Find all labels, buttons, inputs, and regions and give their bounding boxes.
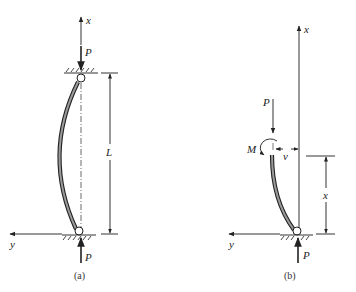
load-arrow-top-a: P: [81, 46, 92, 70]
moment-label-b: M: [246, 143, 257, 155]
position-label-b: x: [322, 189, 328, 201]
column-a: [59, 82, 78, 229]
y-axis-label-b: y: [228, 238, 234, 250]
y-axis-label-a: y: [9, 238, 15, 250]
x-axis-a: x: [81, 14, 91, 45]
moment-b: M: [246, 139, 277, 155]
y-axis-b: y: [228, 234, 280, 250]
load-label-top-b: P: [262, 96, 270, 108]
x-axis-b: x: [299, 23, 309, 234]
length-label-a: L: [105, 146, 112, 158]
x-axis-label-b: x: [303, 23, 309, 35]
load-arrow-bottom-a: P: [81, 238, 92, 263]
y-axis-a: y: [9, 234, 62, 250]
top-support-a: [64, 68, 98, 82]
load-label-bottom-b: P: [302, 249, 310, 261]
caption-a: (a): [74, 270, 85, 282]
position-dimension-b: x: [306, 156, 335, 234]
column-buckling-diagram: x P: [0, 0, 356, 292]
x-axis-label-a: x: [85, 14, 91, 26]
top-pin-a: [77, 74, 85, 82]
length-dimension-a: L: [101, 73, 118, 234]
panel-a: x P: [9, 14, 118, 282]
bottom-pin-b: [293, 227, 301, 235]
deflection-dimension-b: v: [276, 149, 298, 162]
deflection-label-b: v: [283, 150, 288, 162]
bottom-support-a: [62, 227, 96, 240]
load-arrow-top-b: P: [262, 96, 273, 133]
column-segment-b: [272, 155, 294, 230]
caption-b: (b): [284, 270, 296, 282]
load-label-top-a: P: [84, 46, 92, 58]
panel-b: x P M v: [228, 23, 335, 282]
load-arrow-bottom-b: P: [298, 238, 310, 263]
bottom-pin-a: [75, 227, 83, 235]
bottom-support-b: [280, 227, 313, 240]
load-label-bottom-a: P: [84, 251, 92, 263]
